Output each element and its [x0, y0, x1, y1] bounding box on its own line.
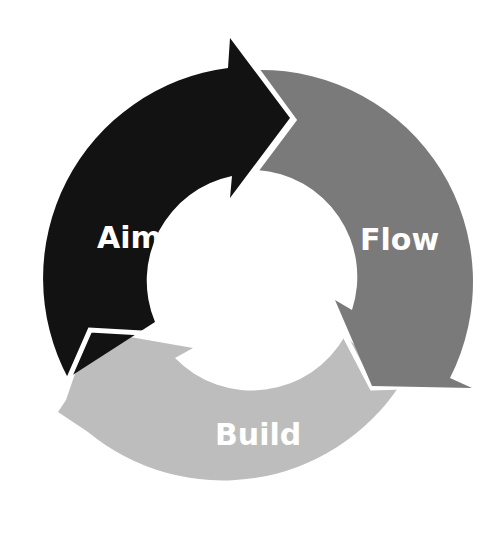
- cycle-diagram: Aim Flow Build: [0, 0, 503, 540]
- aim-label: Aim: [97, 220, 162, 255]
- flow-label: Flow: [360, 222, 439, 257]
- build-label: Build: [215, 417, 301, 452]
- build-arrow: [58, 330, 400, 480]
- aim-arrow: [43, 38, 290, 378]
